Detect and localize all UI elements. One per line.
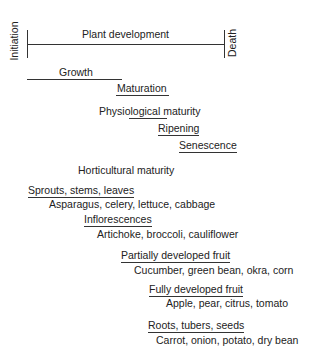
- physiological-maturity-label: Physiological maturity: [99, 105, 201, 117]
- senescence-label: Senescence: [179, 139, 237, 153]
- physiological-maturity-line: [129, 118, 167, 119]
- initiation-label: Initiation: [8, 21, 20, 60]
- category-label: Sprouts, stems, leaves: [28, 184, 134, 198]
- category-examples: Carrot, onion, potato, dry bean: [156, 334, 298, 346]
- plant-development-title: Plant development: [82, 28, 169, 40]
- maturation-label: Maturation: [117, 82, 167, 94]
- category-label: Fully developed fruit: [149, 283, 243, 297]
- category-examples: Artichoke, broccoli, cauliflower: [97, 228, 238, 240]
- ripening-label: Ripening: [158, 122, 199, 136]
- category-examples: Apple, pear, citrus, tomato: [166, 297, 288, 309]
- death-label: Death: [226, 29, 238, 57]
- plant-development-line: [27, 44, 224, 45]
- category-examples: Cucumber, green bean, okra, corn: [134, 264, 293, 276]
- horticultural-maturity-label: Horticultural maturity: [78, 164, 174, 176]
- growth-line: [27, 79, 122, 80]
- death-tick: [224, 30, 225, 58]
- category-label: Roots, tubers, seeds: [148, 319, 244, 333]
- category-label: Partially developed fruit: [121, 249, 230, 263]
- growth-label: Growth: [59, 66, 93, 78]
- category-label: Inflorescences: [84, 213, 152, 227]
- category-examples: Asparagus, celery, lettuce, cabbage: [49, 198, 215, 210]
- maturation-line: [116, 95, 169, 96]
